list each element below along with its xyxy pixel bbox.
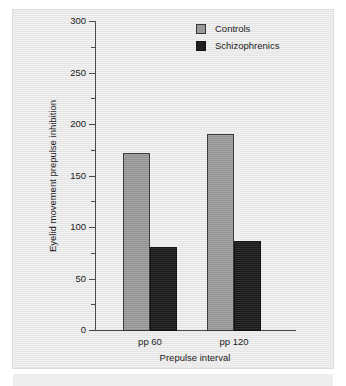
- legend-label-controls: Controls: [215, 24, 250, 34]
- legend-swatch-schizophrenics-icon: [196, 41, 206, 51]
- legend-item-schizophrenics: Schizophrenics: [196, 38, 279, 53]
- legend-swatch-controls-icon: [196, 24, 206, 34]
- chart-figure: 050100150200250300 pp 60pp 120 Prepulse …: [0, 0, 346, 386]
- legend-label-schizophrenics: Schizophrenics: [215, 41, 279, 51]
- chart-legend: Controls Schizophrenics: [196, 21, 279, 55]
- figure-bottom-strip: [13, 374, 333, 386]
- legend-item-controls: Controls: [196, 21, 279, 36]
- chart-panel: [13, 10, 333, 368]
